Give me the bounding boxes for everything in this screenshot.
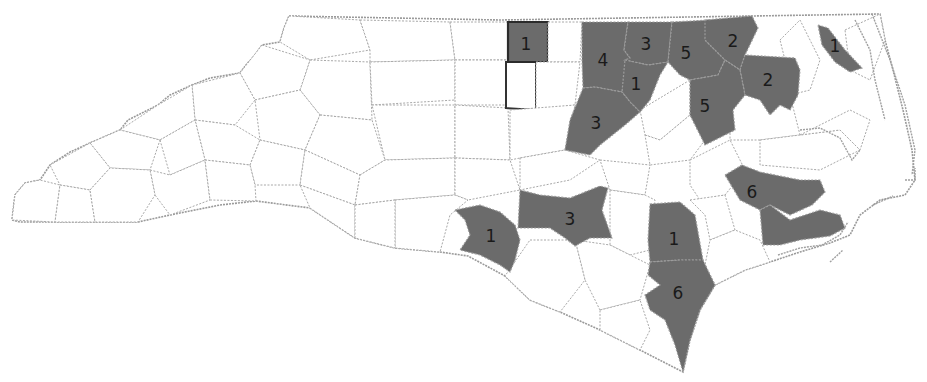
label-duplin: 1 <box>669 229 680 249</box>
label-moore: 3 <box>565 209 576 229</box>
label-franklin: 1 <box>631 74 642 94</box>
nc-county-map: 1 4 3 5 2 1 2 1 3 5 6 3 1 1 6 <box>0 0 927 382</box>
label-granville: 4 <box>598 50 609 70</box>
county-outlined[interactable] <box>506 62 536 110</box>
label-warren: 5 <box>681 43 692 63</box>
label-pasquotank: 1 <box>830 36 841 56</box>
label-vance: 3 <box>641 34 652 54</box>
label-anson: 1 <box>486 226 497 246</box>
label-craven: 6 <box>747 182 758 202</box>
label-northampton: 2 <box>728 31 739 51</box>
label-pender: 6 <box>673 283 684 303</box>
label-bertie: 2 <box>763 70 774 90</box>
county-grid-west <box>12 16 520 252</box>
label-wake: 3 <box>591 113 602 133</box>
label-north-selected: 1 <box>521 34 532 54</box>
label-edgecombe: 5 <box>700 96 711 116</box>
